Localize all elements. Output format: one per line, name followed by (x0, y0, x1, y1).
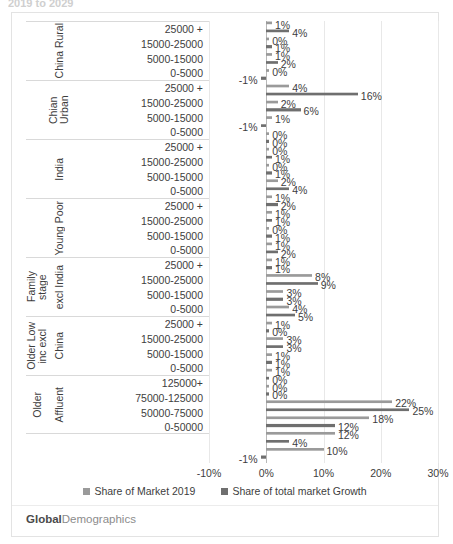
plot-area: China Rural25000 +15000-250005000-150000… (12, 21, 438, 463)
bar-row: 16% (209, 92, 438, 100)
category-group: Chian Urban25000 +15000-250005000-150000… (26, 80, 209, 139)
bar-row: 2% (209, 100, 438, 108)
group-inner-label-text: Chian Urban (48, 81, 70, 139)
bar-row: 1% (209, 210, 438, 218)
bar-row: 2% (209, 179, 438, 187)
bar-row: 4% (209, 84, 438, 92)
income-band-label: 25000 + (70, 81, 209, 96)
bar-row: 1% (209, 321, 438, 329)
bar-row: 1% (209, 171, 438, 179)
bar-share-of-market-2019 (266, 227, 269, 230)
bar-row: 3% (209, 345, 438, 353)
bar-row: 1% (209, 368, 438, 376)
group-outer-label-text: Older Low inc excl (26, 322, 48, 370)
category-axis: China Rural25000 +15000-250005000-150000… (26, 21, 209, 463)
bar-row: 22% (209, 400, 438, 408)
bar-row: 18% (209, 416, 438, 424)
bar-row: 0% (209, 226, 438, 234)
group-outer-label (26, 22, 48, 80)
income-band-label: 25000 + (70, 258, 209, 273)
income-band-labels: 25000 +15000-250005000-150000-5000 (70, 199, 209, 257)
bar-row: 0% (209, 139, 438, 147)
bar-share-of-market-2019 (266, 211, 272, 214)
bar-share-of-total-market-growth (266, 93, 358, 96)
income-band-label: 5000-15000 (70, 170, 209, 185)
group-inner-label: China Rural (48, 22, 70, 80)
bar-group: 8%9%3%3%4%5%1%0% (209, 274, 438, 337)
bar-row: 2% (209, 203, 438, 211)
bar-share-of-market-2019 (266, 85, 289, 88)
bar-row: 0% (209, 132, 438, 140)
x-axis-tick: 10% (313, 465, 334, 481)
bar-row: 12% (209, 431, 438, 439)
bar-share-of-market-2019 (266, 337, 283, 340)
income-band-label: 5000-15000 (70, 52, 209, 67)
income-band-labels: 25000 +15000-250005000-150000-5000 (70, 140, 209, 198)
income-band-label: 0-5000 (70, 184, 209, 199)
bar-share-of-market-2019 (266, 100, 277, 103)
bar-share-of-market-2019 (266, 353, 272, 356)
bar-row: 4% (209, 187, 438, 195)
legend-label: Share of total market Growth (232, 485, 366, 497)
bar-share-of-total-market-growth (266, 156, 272, 159)
x-axis-tick-labels: -10%0%10%20%30% (209, 465, 438, 481)
group-inner-label: excl India (48, 258, 70, 316)
cut-off-title-sliver: 2019 to 2029 (8, 0, 128, 7)
bar-row: 1% (209, 195, 438, 203)
bar-row: 1% (209, 234, 438, 242)
income-band-label: 5000-15000 (70, 111, 209, 126)
brand-part-1: Global (26, 513, 62, 525)
bar-share-of-total-market-growth (266, 329, 269, 332)
income-band-label: 25000 + (70, 22, 209, 37)
group-inner-label-text: Affluent (54, 387, 65, 422)
legend-swatch-icon (221, 488, 228, 495)
bar-row: 5% (209, 313, 438, 321)
bar-row: 25% (209, 408, 438, 416)
bar-row: 0% (209, 163, 438, 171)
income-band-label: 5000-15000 (70, 347, 209, 362)
group-outer-label: Older (26, 376, 48, 433)
x-axis-tick: 20% (370, 465, 391, 481)
bar-share-of-market-2019 (266, 53, 272, 56)
bar-group: 1%1%0%1%1%2%1%1% (209, 210, 438, 273)
income-band-label: 25000 + (70, 317, 209, 332)
bar-share-of-total-market-growth (266, 235, 272, 238)
bar-share-of-market-2019 (266, 195, 272, 198)
x-axis-tick: -10% (197, 465, 222, 481)
group-inner-label: Affluent (48, 376, 70, 433)
bar-row: 6% (209, 108, 438, 116)
bar-row: 2% (209, 250, 438, 258)
group-inner-label: Young Poor (48, 199, 70, 257)
bar-share-of-total-market-growth (266, 424, 335, 427)
bar-row: 12% (209, 424, 438, 432)
cut-off-title-text: 2019 to 2029 (8, 0, 128, 7)
bar-share-of-market-2019 (266, 116, 272, 119)
category-group: China Rural25000 +15000-250005000-150000… (26, 21, 209, 80)
bar-share-of-total-market-growth (266, 440, 289, 443)
legend-item[interactable]: Share of Market 2019 (83, 485, 195, 497)
legend-item[interactable]: Share of total market Growth (221, 485, 366, 497)
x-axis-tick: 0% (259, 465, 274, 481)
income-band-label: 0-5000 (70, 66, 209, 81)
bar-share-of-total-market-growth (266, 408, 409, 411)
bar-group: 1%4%0%1%1%2%0%-1% (209, 21, 438, 84)
bar-share-of-total-market-growth (266, 45, 272, 48)
bar-share-of-market-2019 (266, 416, 369, 419)
bar-share-of-market-2019 (266, 400, 392, 403)
bar-row: 1% (209, 258, 438, 266)
bar-share-of-total-market-growth (261, 124, 267, 127)
bar-share-of-total-market-growth (266, 393, 269, 396)
bar-row: 3% (209, 337, 438, 345)
bar-share-of-market-2019 (266, 448, 323, 451)
income-band-label: 0-50000 (70, 420, 209, 435)
bar-row: 0% (209, 329, 438, 337)
bar-row: 1% (209, 242, 438, 250)
income-band-label: 15000-25000 (70, 96, 209, 111)
bar-row: 1% (209, 21, 438, 29)
bar-share-of-market-2019 (266, 321, 272, 324)
bars-area: 1%4%0%1%1%2%0%-1%4%16%2%6%1%-1%0%0%0%1%0… (209, 21, 438, 463)
bar-share-of-market-2019 (266, 369, 272, 372)
income-band-label: 0-5000 (70, 243, 209, 258)
group-outer-label (26, 81, 48, 139)
bar-share-of-total-market-growth (266, 187, 289, 190)
